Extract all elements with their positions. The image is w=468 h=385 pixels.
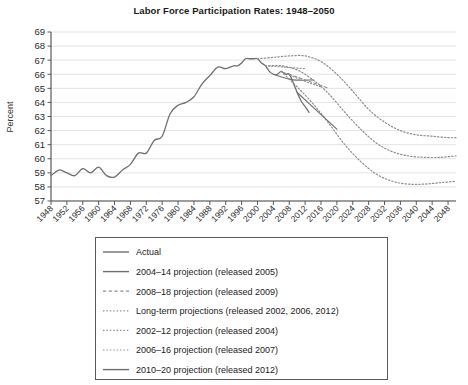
x-tick-label: 2036 bbox=[384, 203, 405, 224]
x-tick-label: 2008 bbox=[273, 203, 294, 224]
y-tick-label: 62 bbox=[34, 125, 45, 136]
x-tick-label: 2020 bbox=[320, 203, 341, 224]
x-tick-label: 1956 bbox=[66, 203, 87, 224]
y-tick-label: 64 bbox=[34, 97, 45, 108]
x-tick-label: 1964 bbox=[98, 203, 119, 224]
x-tick-label: 2004 bbox=[257, 203, 278, 224]
y-tick-label: 58 bbox=[34, 181, 45, 192]
x-axis-tick-labels: 1948195219561960196419681972197619801984… bbox=[34, 203, 452, 224]
legend-label-2: 2008–18 projection (released 2009) bbox=[136, 287, 278, 297]
x-tick-label: 1972 bbox=[130, 203, 151, 224]
y-tick-label: 63 bbox=[34, 111, 45, 122]
y-tick-label: 69 bbox=[34, 26, 45, 37]
y-tick-label: 60 bbox=[34, 153, 45, 164]
x-tick-label: 2016 bbox=[304, 203, 325, 224]
x-tick-label: 2024 bbox=[336, 203, 357, 224]
y-tick-label: 68 bbox=[34, 40, 45, 51]
series-line-4 bbox=[265, 66, 305, 69]
x-tick-label: 1988 bbox=[193, 203, 214, 224]
x-tick-label: 2000 bbox=[241, 203, 262, 224]
series-line-1 bbox=[273, 74, 313, 80]
legend-label-1: 2004–14 projection (released 2005) bbox=[136, 267, 278, 277]
y-tick-label: 66 bbox=[34, 69, 45, 80]
series-line-5 bbox=[281, 71, 321, 87]
x-tick-label: 2040 bbox=[400, 203, 421, 224]
x-tick-label: 1952 bbox=[50, 203, 71, 224]
y-tick-label: 57 bbox=[34, 195, 45, 206]
x-tick-label: 1992 bbox=[209, 203, 230, 224]
x-tick-label: 1968 bbox=[114, 203, 135, 224]
legend-label-3: Long-term projections (released 2002, 20… bbox=[136, 306, 339, 316]
y-tick-label: 65 bbox=[34, 83, 45, 94]
x-tick-label: 2032 bbox=[368, 203, 389, 224]
chart-figure: Labor Force Participation Rates: 1948–20… bbox=[0, 0, 468, 385]
y-axis-label: Percent bbox=[5, 101, 15, 133]
series-line-3-1 bbox=[265, 65, 456, 157]
legend-label-0: Actual bbox=[136, 247, 161, 257]
y-tick-label: 59 bbox=[34, 167, 45, 178]
x-tick-label: 2028 bbox=[352, 203, 373, 224]
y-tick-label: 61 bbox=[34, 139, 45, 150]
x-tick-label: 2012 bbox=[289, 203, 310, 224]
x-tick-label: 1980 bbox=[162, 203, 183, 224]
gridlines bbox=[51, 32, 456, 201]
x-tick-label: 1996 bbox=[225, 203, 246, 224]
legend-label-5: 2006–16 projection (released 2007) bbox=[136, 345, 278, 355]
data-series-group bbox=[51, 55, 456, 184]
series-line-0 bbox=[51, 58, 309, 177]
chart-title: Labor Force Participation Rates: 1948–20… bbox=[133, 5, 334, 16]
y-axis-tick-labels: 57585960616263646566676869 bbox=[34, 26, 45, 206]
x-tick-label: 2044 bbox=[416, 203, 437, 224]
x-tick-label: 1984 bbox=[177, 203, 198, 224]
legend-label-6: 2010–20 projection (released 2012) bbox=[136, 365, 278, 375]
y-tick-label: 67 bbox=[34, 55, 45, 66]
x-tick-label: 1960 bbox=[82, 203, 103, 224]
series-line-6 bbox=[297, 93, 337, 130]
x-tick-label: 2048 bbox=[432, 203, 453, 224]
legend-label-4: 2002–12 projection (released 2004) bbox=[136, 326, 278, 336]
x-tick-label: 1976 bbox=[146, 203, 167, 224]
